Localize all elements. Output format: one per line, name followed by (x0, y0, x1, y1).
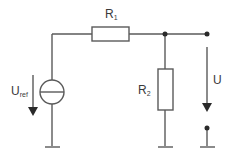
label-u: U (213, 74, 222, 86)
label-r2-sub: 2 (147, 90, 151, 97)
label-u-main: U (213, 73, 222, 87)
label-r1: R1 (105, 8, 118, 21)
u-arrowhead-icon (202, 103, 212, 112)
circuit-diagram (0, 0, 230, 156)
label-r2-main: R (138, 83, 147, 97)
junction-node-icon (163, 32, 168, 37)
resistor-r1 (92, 27, 129, 41)
resistor-r2 (158, 69, 173, 110)
output-terminal-bottom-icon (205, 126, 210, 131)
label-uref-sub: ref (20, 91, 28, 98)
uref-arrowhead-icon (28, 107, 38, 116)
label-uref-main: U (11, 84, 20, 98)
label-r1-main: R (105, 7, 114, 21)
label-r2: R2 (138, 84, 151, 97)
label-uref: Uref (11, 85, 28, 98)
label-r1-sub: 1 (114, 14, 118, 21)
output-terminal-top-icon (205, 32, 210, 37)
